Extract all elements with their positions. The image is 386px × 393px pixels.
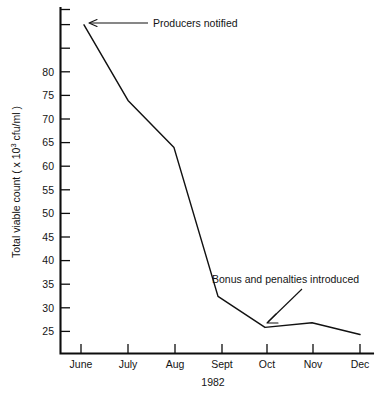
line-chart: 80 75 70 65 60 55 50 45 40 35 30 25 June bbox=[0, 0, 386, 393]
x-tick-label-july: July bbox=[119, 358, 138, 370]
x-tick-label-june: June bbox=[70, 358, 93, 370]
y-axis-title-after: cfu/ml ) bbox=[10, 106, 22, 143]
arrow-head-icon bbox=[267, 314, 278, 323]
y-tick-label: 35 bbox=[42, 278, 54, 290]
y-axis-title: Total viable count ( x 103 cfu/ml ) bbox=[9, 106, 22, 258]
y-tick-label: 50 bbox=[42, 207, 54, 219]
x-tick-label-nov: Nov bbox=[304, 358, 323, 370]
axis-lines bbox=[61, 8, 374, 354]
x-tick-label-dec: Dec bbox=[351, 358, 370, 370]
data-series-line bbox=[84, 25, 360, 335]
y-tick-label: 45 bbox=[42, 231, 54, 243]
y-axis-tick-labels: 80 75 70 65 60 55 50 45 40 35 30 25 bbox=[42, 66, 54, 338]
svg-text:Total viable count ( x 103 cfu: Total viable count ( x 103 cfu/ml ) bbox=[9, 106, 22, 258]
annotation-bonus-penalties: Bonus and penalties introduced bbox=[212, 273, 359, 323]
x-axis-ticks bbox=[81, 344, 360, 353]
annotation-label-bonus-penalties: Bonus and penalties introduced bbox=[212, 273, 359, 285]
x-axis-title: 1982 bbox=[201, 376, 225, 388]
x-tick-label-sept: Sept bbox=[211, 358, 233, 370]
annotation-label-producers-notified: Producers notified bbox=[153, 17, 238, 29]
y-tick-label: 70 bbox=[42, 113, 54, 125]
axes-group bbox=[61, 8, 374, 354]
y-tick-label: 55 bbox=[42, 184, 54, 196]
y-tick-label: 25 bbox=[42, 325, 54, 337]
x-tick-label-oct: Oct bbox=[259, 358, 275, 370]
y-tick-label: 60 bbox=[42, 160, 54, 172]
x-tick-label-aug: Aug bbox=[166, 358, 185, 370]
y-tick-label: 30 bbox=[42, 302, 54, 314]
y-tick-label: 80 bbox=[42, 66, 54, 78]
y-axis-title-before: Total viable count ( x 10 bbox=[10, 147, 22, 257]
annotation-producers-notified: Producers notified bbox=[89, 17, 238, 29]
y-tick-label: 40 bbox=[42, 254, 54, 266]
x-axis-tick-labels: June July Aug Sept Oct Nov Dec bbox=[70, 358, 370, 370]
y-tick-label: 65 bbox=[42, 136, 54, 148]
y-tick-label: 75 bbox=[42, 89, 54, 101]
chart-container: 80 75 70 65 60 55 50 45 40 35 30 25 June bbox=[0, 0, 386, 393]
